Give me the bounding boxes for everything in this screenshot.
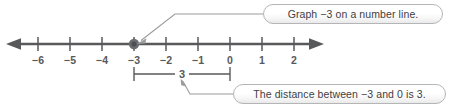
leader-line-graph bbox=[137, 14, 264, 44]
arrow-left-icon bbox=[6, 38, 21, 50]
arrow-right-icon bbox=[309, 38, 324, 50]
tick-label--2: −2 bbox=[160, 55, 172, 66]
callout-graph-instruction: Graph −3 on a number line. bbox=[263, 4, 443, 24]
tick-label-1: 1 bbox=[259, 55, 265, 66]
callout-graph-text: Graph −3 on a number line. bbox=[288, 9, 419, 20]
callout-distance-explanation: The distance between −3 and 0 is 3. bbox=[233, 84, 446, 104]
tick-label--3: −3 bbox=[128, 55, 140, 66]
leader-line-distance bbox=[181, 78, 234, 95]
tick-label--5: −5 bbox=[64, 55, 76, 66]
tick-label-0: 0 bbox=[227, 55, 233, 66]
plotted-point-marker bbox=[129, 39, 139, 49]
tick-label--6: −6 bbox=[32, 55, 44, 66]
tick-label--4: −4 bbox=[96, 55, 108, 66]
tick-label--1: −1 bbox=[192, 55, 204, 66]
measure-label: 3 bbox=[175, 69, 189, 80]
number-line-axis bbox=[6, 38, 324, 50]
tick-label-2: 2 bbox=[291, 55, 297, 66]
callout-distance-text: The distance between −3 and 0 is 3. bbox=[253, 89, 426, 100]
number-line-figure: −6 −5 −4 −3 −2 −1 0 1 2 3 Graph −3 on a … bbox=[0, 0, 449, 108]
